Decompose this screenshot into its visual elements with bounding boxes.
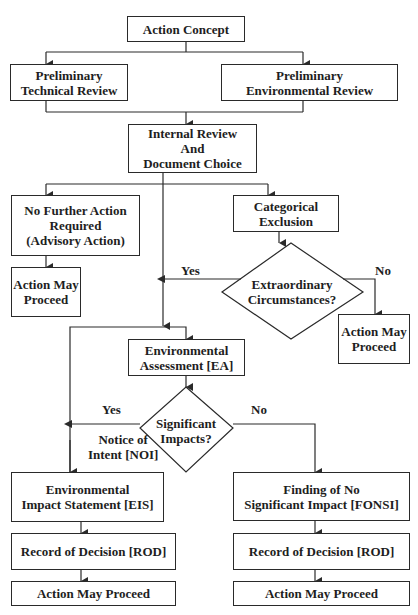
decision-label: Significant (156, 416, 216, 431)
node-label: Action May Proceed (265, 586, 378, 601)
action-concept-node: Action Concept (127, 16, 245, 42)
node-label: Technical Review (21, 83, 118, 98)
node-label: Action Concept (143, 22, 229, 37)
node-label: Proceed (24, 292, 69, 307)
decision-label: Impacts? (160, 431, 211, 446)
node-label: Document Choice (143, 156, 242, 171)
action-may-proceed-fonsi-node: Action May Proceed (233, 581, 410, 606)
action-may-proceed-advisory-node: Action May Proceed (11, 267, 81, 317)
extraordinary-yes-label: Yes (181, 263, 200, 278)
node-label: Required (50, 218, 102, 233)
node-label: (Advisory Action) (26, 233, 125, 248)
node-label: Significant Impact [FONSI] (244, 497, 399, 512)
node-label: Finding of No (283, 482, 360, 497)
categorical-exclusion-node: Categorical Exclusion (233, 195, 339, 232)
record-of-decision-left-node: Record of Decision [ROD] (11, 533, 176, 570)
preliminary-environmental-review-node: Preliminary Environmental Review (221, 64, 398, 101)
node-label: Internal Review (148, 126, 237, 141)
record-of-decision-right-node: Record of Decision [ROD] (233, 533, 410, 570)
significant-yes-label: Yes (102, 402, 121, 417)
node-label: Preliminary (36, 68, 103, 83)
node-label: Assessment [EA] (140, 358, 234, 373)
node-label: Categorical (254, 199, 318, 214)
node-label: Proceed (352, 339, 397, 354)
node-label: Action May (341, 324, 406, 339)
fonsi-node: Finding of No Significant Impact [FONSI] (233, 472, 410, 521)
node-label: Environmental Review (246, 83, 373, 98)
node-label: No Further Action (24, 203, 126, 218)
environmental-assessment-node: Environmental Assessment [EA] (128, 339, 245, 376)
node-label: Action May (13, 277, 78, 292)
node-label: Impact Statement [EIS] (21, 497, 153, 512)
action-may-proceed-eis-node: Action May Proceed (11, 581, 176, 606)
node-label: Environmental (46, 482, 130, 497)
node-label: Preliminary (276, 68, 343, 83)
node-label: Record of Decision [ROD] (21, 544, 167, 559)
node-label: Exclusion (259, 214, 313, 229)
environmental-impact-statement-node: Environmental Impact Statement [EIS] (11, 472, 164, 522)
node-label: Environmental (145, 343, 229, 358)
node-label: And (181, 141, 205, 156)
decision-label: Extraordinary (252, 277, 333, 292)
notice-of-intent-label: Notice of Intent [NOI] (88, 432, 158, 462)
action-may-proceed-catex-node: Action May Proceed (338, 314, 410, 364)
internal-review-node: Internal Review And Document Choice (128, 124, 257, 173)
node-label: Action May Proceed (37, 586, 150, 601)
decision-label: Circumstances? (248, 292, 337, 307)
node-label: Record of Decision [ROD] (249, 544, 395, 559)
extraordinary-circumstances-decision: Extraordinary Circumstances? (232, 276, 352, 308)
extraordinary-no-label: No (375, 263, 391, 278)
no-further-action-node: No Further Action Required (Advisory Act… (11, 195, 140, 256)
significant-no-label: No (251, 402, 267, 417)
preliminary-technical-review-node: Preliminary Technical Review (10, 64, 128, 101)
